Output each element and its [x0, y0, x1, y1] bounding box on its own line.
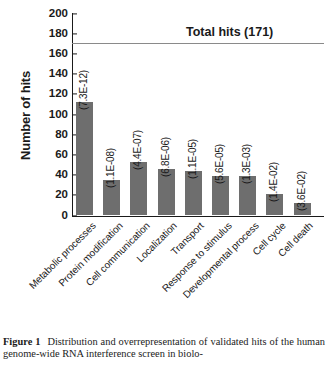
figure-1: Number of hits 0204060801001201401601802…	[0, 0, 328, 373]
bar-pvalue-label: (1.4E-02)	[268, 162, 279, 202]
figure-caption: Figure 1Distribution and overrepresentat…	[3, 336, 325, 361]
bar	[76, 102, 93, 215]
bar-pvalue-label: (1.3E-03)	[241, 144, 252, 184]
bar-chart: Number of hits 0204060801001201401601802…	[0, 0, 328, 320]
caption-label: Figure 1	[3, 336, 40, 347]
bar-pvalue-label: (7.3E-12)	[78, 70, 89, 110]
caption-text: Distribution and overrepresentation of v…	[3, 336, 325, 359]
bar-pvalue-label: (1.1E-08)	[105, 148, 116, 188]
bar-pvalue-label: (4.4E-07)	[132, 130, 143, 170]
bar-pvalue-label: (6.8E-06)	[160, 137, 171, 177]
bar-pvalue-label: (5.6E-05)	[214, 144, 225, 184]
bar-pvalue-label: (1.1E-05)	[187, 139, 198, 179]
bar-pvalue-label: (3.6E-02)	[296, 171, 307, 211]
